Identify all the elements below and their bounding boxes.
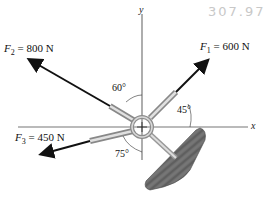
angle-60: 60° bbox=[112, 82, 126, 93]
x-axis-label: x bbox=[251, 120, 255, 131]
f2-label: F2 = 800 N bbox=[4, 42, 54, 57]
force-diagram bbox=[0, 0, 277, 199]
f2-arrow bbox=[30, 60, 110, 106]
y-axis-label: y bbox=[139, 4, 143, 15]
handwritten-note: 307.97 bbox=[208, 4, 266, 19]
f1-label: F1 = 600 N bbox=[200, 40, 250, 55]
f3-label: F3 = 450 N bbox=[15, 131, 65, 146]
angle-75: 75° bbox=[115, 148, 129, 159]
angle-45: 45° bbox=[177, 104, 191, 115]
f1-arrow bbox=[176, 61, 207, 92]
